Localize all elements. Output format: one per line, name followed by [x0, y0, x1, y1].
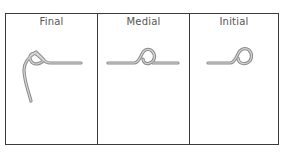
letter-forms-table: Final Medial Initial [5, 13, 279, 145]
column-initial: Initial [189, 14, 278, 144]
medial-form-glyph-icon [98, 14, 190, 146]
initial-form-glyph-icon [190, 14, 280, 146]
column-final: Final [6, 14, 97, 144]
final-form-glyph-icon [6, 14, 97, 146]
column-medial: Medial [97, 14, 189, 144]
